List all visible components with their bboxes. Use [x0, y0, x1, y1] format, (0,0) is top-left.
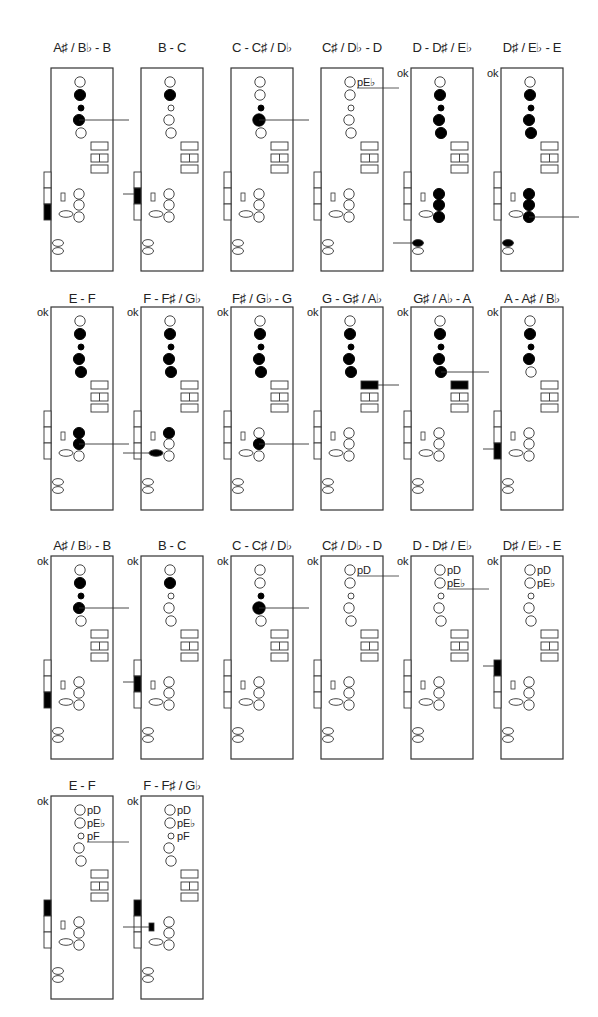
open-hole-icon [435, 77, 445, 87]
closed-hole-icon [74, 577, 85, 588]
closed-hole-icon [258, 344, 264, 350]
closed-hole-icon [78, 105, 84, 111]
side-key-icon [404, 172, 411, 188]
open-hole-icon [165, 805, 175, 815]
oval-key-icon [59, 699, 73, 706]
thumb-key-icon [413, 728, 424, 735]
closed-hole-icon [164, 89, 175, 100]
open-hole-icon [166, 616, 176, 626]
small-key-icon [61, 921, 65, 929]
thumb-key-icon [413, 248, 424, 255]
open-hole-icon [346, 128, 356, 138]
side-key-icon [314, 172, 321, 188]
thumb-key-icon [53, 479, 64, 486]
closed-hole-icon [165, 366, 176, 377]
open-hole-icon [344, 115, 354, 125]
small-key-icon [241, 193, 245, 201]
open-hole-icon [525, 578, 535, 588]
closed-hole-icon [74, 89, 85, 100]
small-key-icon [331, 432, 335, 440]
open-hole-icon [254, 200, 264, 210]
side-key-icon [134, 443, 141, 459]
thumb-key-icon [233, 479, 244, 486]
thumb-key-icon [323, 240, 334, 247]
hole-label: pD [537, 564, 551, 576]
side-key-icon [314, 660, 321, 676]
pad-key-icon [451, 630, 468, 638]
open-hole-icon [74, 189, 84, 199]
open-hole-icon [255, 565, 265, 575]
closed-hole-icon [433, 114, 444, 125]
fingering-panel: D - D♯ / E♭okpDpE♭ [397, 538, 487, 778]
closed-hole-icon [435, 127, 446, 138]
ok-label: ok [307, 306, 319, 318]
open-hole-icon [165, 818, 175, 828]
fingering-panel: F♯ / G♭ - Gok [217, 291, 307, 531]
open-hole-icon [524, 428, 534, 438]
thumb-key-icon [143, 976, 154, 983]
thumb-key-icon [413, 479, 424, 486]
open-hole-icon [254, 428, 264, 438]
open-hole-icon [345, 565, 355, 575]
thumb-key-icon [233, 728, 244, 735]
open-hole-icon [344, 428, 354, 438]
pad-key-icon [451, 404, 468, 412]
thumb-key-icon [53, 736, 64, 743]
side-key-icon [44, 204, 51, 220]
side-key-icon [134, 676, 141, 692]
open-hole-icon [434, 439, 444, 449]
side-key-icon [404, 188, 411, 204]
hole-label: pD [177, 804, 191, 816]
fingering-panel: D - D♯ / E♭ok [397, 40, 487, 280]
open-hole-icon [254, 451, 264, 461]
open-hole-icon [74, 200, 84, 210]
closed-hole-icon [434, 328, 445, 339]
closed-hole-icon [168, 344, 174, 350]
oval-key-icon [329, 450, 343, 457]
open-hole-icon [344, 688, 354, 698]
thumb-key-icon [413, 736, 424, 743]
thumb-key-icon [53, 487, 64, 494]
open-hole-icon [74, 677, 84, 687]
hole-label: pE♭ [447, 577, 465, 589]
side-key-icon [44, 692, 51, 708]
ok-label: ok [127, 306, 139, 318]
side-key-icon [224, 427, 231, 443]
pad-key-icon [271, 653, 288, 661]
small-key-icon [241, 681, 245, 689]
open-hole-icon [434, 688, 444, 698]
fingering-panel: C - C♯ / D♭ [217, 40, 307, 280]
side-key-icon [44, 932, 51, 948]
side-key-icon [134, 411, 141, 427]
side-key-icon [314, 692, 321, 708]
closed-hole-icon [438, 344, 444, 350]
open-hole-icon [74, 451, 84, 461]
open-hole-icon [168, 105, 174, 111]
closed-hole-icon [345, 366, 356, 377]
open-hole-icon [344, 212, 354, 222]
fingering-panel: C♯ / D♭ - DpE♭ [307, 40, 397, 280]
open-hole-icon [525, 316, 535, 326]
pad-key-icon [181, 404, 198, 412]
fingering-panel: C♯ / D♭ - DokpD [307, 538, 397, 778]
open-hole-icon [164, 700, 174, 710]
open-hole-icon [254, 700, 264, 710]
thumb-key-icon [503, 736, 514, 743]
thumb-key-icon [233, 487, 244, 494]
fingering-panel: D♯ / E♭ - EokpDpE♭ [487, 538, 577, 778]
pad-key-icon [181, 165, 198, 173]
thumb-key-icon [323, 487, 334, 494]
small-key-icon [151, 193, 155, 201]
open-hole-icon [438, 593, 444, 599]
side-key-icon [404, 411, 411, 427]
thumb-key-icon [413, 487, 424, 494]
thumb-key-icon [53, 976, 64, 983]
side-key-icon [224, 411, 231, 427]
closed-hole-icon [255, 366, 266, 377]
open-hole-icon [345, 77, 355, 87]
ok-label: ok [487, 306, 499, 318]
oval-key-icon [59, 211, 73, 218]
side-key-icon [494, 443, 501, 459]
ok-label: ok [487, 555, 499, 567]
side-key-icon [44, 660, 51, 676]
